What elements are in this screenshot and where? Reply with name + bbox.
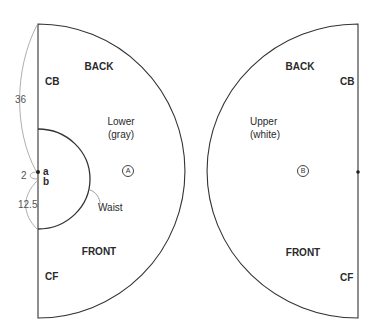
piece-b-name-line2: (white) (250, 129, 280, 141)
point-b-label: b (43, 176, 49, 188)
piece-b-back-label: BACK (286, 61, 315, 73)
piece-b-marker: B (297, 165, 309, 177)
piece-b-front-label: FRONT (286, 247, 320, 259)
piece-b-name-line1: Upper (250, 116, 277, 128)
piece-a-front-label: FRONT (82, 246, 116, 258)
dim-label-12-5: 12.5 (18, 199, 37, 211)
pattern-drawing (0, 0, 373, 336)
piece-a-name-line2: (gray) (108, 129, 134, 141)
piece-b-cb-label: CB (340, 76, 354, 88)
piece-a-name-line1: Lower (107, 116, 134, 128)
piece-a-cb-label: CB (45, 76, 59, 88)
dim-label-2: 2 (21, 170, 27, 182)
waist-label: Waist (98, 202, 123, 214)
piece-a-back-label: BACK (85, 61, 114, 73)
piece-a-marker: A (122, 165, 134, 177)
piece-a-cf-label: CF (45, 271, 58, 283)
dim-label-36: 36 (15, 94, 26, 106)
piece-b-outline (207, 24, 358, 318)
piece-b-dot (356, 170, 360, 174)
dim-arc-2 (30, 172, 37, 179)
piece-b-cf-label: CF (340, 272, 353, 284)
point-a-dot (36, 170, 40, 174)
